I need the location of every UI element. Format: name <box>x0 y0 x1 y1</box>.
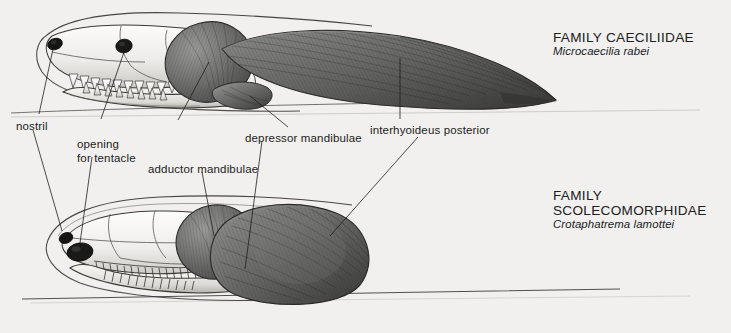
label-depressor-mandibulae: depressor mandibulae <box>245 132 362 144</box>
plate-canvas: nostril opening for tentacle adductor ma… <box>0 0 731 333</box>
family-block-caeciliidae: FAMILY CAECILIIDAE Microcaecilia rabei <box>553 30 694 57</box>
family-block-scolecomorphidae: FAMILY SCOLECOMORPHIDAE Crotaphatrema la… <box>553 188 731 230</box>
specimen-upper-caeciliidae <box>37 13 565 120</box>
family-name-lower: FAMILY SCOLECOMORPHIDAE <box>553 188 731 218</box>
label-nostril: nostril <box>16 120 48 132</box>
label-adductor-mandibulae: adductor mandibulae <box>148 163 258 175</box>
label-opening-for-tentacle: opening for tentacle <box>77 138 136 165</box>
label-interhyoideus-posterior: interhyoideus posterior <box>370 124 490 136</box>
family-name-upper: FAMILY CAECILIIDAE <box>553 30 694 45</box>
specimen-lower-scolecomorphidae <box>46 195 390 315</box>
species-name-lower: Crotaphatrema lamottei <box>553 218 731 230</box>
illustration-plate: nostril opening for tentacle adductor ma… <box>0 0 731 333</box>
interhyoideus-posterior-upper <box>215 20 565 120</box>
species-name-upper: Microcaecilia rabei <box>553 45 694 57</box>
